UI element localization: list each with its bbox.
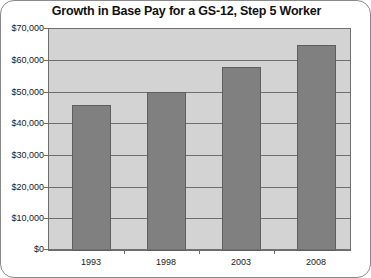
- x-tick-label-1993: 1993: [81, 257, 101, 267]
- y-tick-mark-0: [44, 249, 48, 250]
- bar-2003[interactable]: [222, 67, 261, 251]
- y-tick-mark-20000: [44, 187, 48, 188]
- y-tick-label-0: $0: [3, 244, 44, 254]
- y-axis-labels: $70,000 $60,000 $50,000 $40,000 $30,000 …: [1, 1, 44, 278]
- y-tick-mark-10000: [44, 218, 48, 219]
- bar-2008[interactable]: [297, 45, 336, 251]
- y-tick-label-40000: $40,000: [3, 118, 44, 128]
- y-axis-line: [48, 28, 49, 250]
- x-tick-mark-2: [199, 250, 200, 254]
- chart-title: Growth in Base Pay for a GS-12, Step 5 W…: [1, 4, 371, 18]
- y-tick-label-30000: $30,000: [3, 150, 44, 160]
- chart-frame: Growth in Base Pay for a GS-12, Step 5 W…: [0, 0, 371, 278]
- x-tick-mark-3: [274, 250, 275, 254]
- gridline-70000: [49, 28, 350, 29]
- bar-1993[interactable]: [72, 105, 111, 251]
- y-tick-mark-40000: [44, 123, 48, 124]
- bar-1998[interactable]: [147, 92, 186, 251]
- y-tick-mark-70000: [44, 28, 48, 29]
- y-tick-label-60000: $60,000: [3, 55, 44, 65]
- y-tick-label-70000: $70,000: [3, 23, 44, 33]
- plot-area: [48, 28, 351, 251]
- x-tick-label-2003: 2003: [231, 257, 251, 267]
- y-tick-mark-30000: [44, 155, 48, 156]
- x-tick-label-1998: 1998: [156, 257, 176, 267]
- y-tick-label-20000: $20,000: [3, 182, 44, 192]
- y-tick-mark-60000: [44, 60, 48, 61]
- y-tick-mark-50000: [44, 92, 48, 93]
- x-tick-label-2008: 2008: [306, 257, 326, 267]
- y-tick-label-50000: $50,000: [3, 87, 44, 97]
- x-tick-mark-1: [124, 250, 125, 254]
- y-tick-label-10000: $10,000: [3, 213, 44, 223]
